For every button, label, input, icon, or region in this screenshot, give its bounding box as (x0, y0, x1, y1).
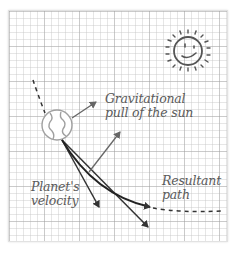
smiling-sun-icon (166, 30, 210, 71)
gravity-label: Gravitational pull of the sun (105, 92, 193, 120)
planet-earth-icon (42, 110, 72, 140)
gravity-label-line2: pull of the sun (105, 106, 193, 120)
velocity-label: Planet's velocity (31, 180, 80, 208)
gravity-label-line1: Gravitational (105, 92, 193, 106)
orbit-dashed-trail (33, 80, 45, 113)
resultant-label: Resultant path (162, 174, 221, 202)
resultant-label-line1: Resultant (162, 174, 221, 188)
resultant-dashed-trail (153, 208, 222, 212)
diagram-canvas (0, 0, 234, 253)
velocity-label-line1: Planet's (31, 180, 80, 194)
gravity-arrow-top (72, 102, 96, 118)
gravity-arrow-mid (89, 132, 120, 172)
velocity-label-line2: velocity (31, 194, 80, 208)
resultant-label-line2: path (162, 188, 221, 202)
